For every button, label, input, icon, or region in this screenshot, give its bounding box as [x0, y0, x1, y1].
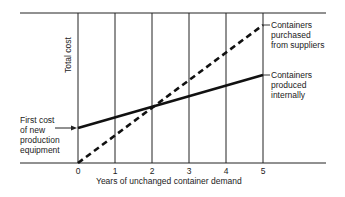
x-tick-2: 2	[146, 166, 158, 176]
annotation-line: First cost	[20, 115, 60, 125]
legend-line: internally	[271, 90, 312, 100]
annotation-first-cost: First cost of new production equipment	[20, 115, 60, 155]
annotation-line: equipment	[20, 145, 60, 155]
x-tick-4: 4	[220, 166, 232, 176]
gridlines	[78, 13, 263, 163]
legend-line: from suppliers	[271, 40, 324, 50]
annotation-line: production	[20, 135, 60, 145]
y-axis-label: Total cost	[63, 37, 73, 73]
legend-line: produced	[271, 80, 312, 90]
arrow-icon	[71, 126, 77, 131]
legend-line: purchased	[271, 30, 324, 40]
legend-line: Containers	[271, 20, 324, 30]
legend-purchased: Containers purchased from suppliers	[271, 20, 324, 50]
x-tick-3: 3	[183, 166, 195, 176]
legend-line: Containers	[271, 70, 312, 80]
x-tick-5: 5	[257, 166, 269, 176]
legend-produced: Containers produced internally	[271, 70, 312, 100]
x-tick-0: 0	[72, 166, 84, 176]
x-axis-label: Years of unchanged container demand	[96, 176, 242, 186]
series-purchased-line	[78, 25, 263, 163]
annotation-line: of new	[20, 125, 60, 135]
series-produced-line	[78, 75, 263, 128]
x-tick-1: 1	[109, 166, 121, 176]
